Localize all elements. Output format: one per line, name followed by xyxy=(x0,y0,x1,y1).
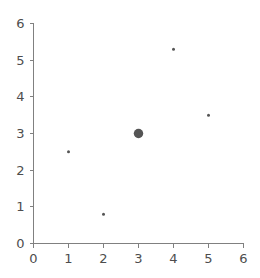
scatter-point xyxy=(172,48,175,51)
scatter-point xyxy=(207,114,210,117)
x-tick-label: 5 xyxy=(204,251,212,266)
y-tick-label: 5 xyxy=(16,53,24,68)
y-tick-label: 6 xyxy=(16,16,24,31)
scatter-point xyxy=(102,213,105,216)
x-tick-label: 6 xyxy=(239,251,247,266)
y-tick-label: 1 xyxy=(16,199,24,214)
plot-canvas: 0123456 0123456 xyxy=(0,0,260,278)
figure-background xyxy=(0,0,260,278)
y-tick-label: 4 xyxy=(16,89,24,104)
scatter-plot-figure: 0123456 0123456 xyxy=(0,0,260,278)
scatter-point xyxy=(67,150,70,153)
y-tick-label: 0 xyxy=(16,236,24,251)
y-tick-label: 2 xyxy=(16,163,24,178)
y-tick-label: 3 xyxy=(16,126,24,141)
scatter-point xyxy=(134,129,144,139)
x-tick-label: 3 xyxy=(134,251,142,266)
x-tick-label: 0 xyxy=(29,251,37,266)
x-tick-label: 1 xyxy=(64,251,72,266)
x-tick-label: 4 xyxy=(169,251,177,266)
x-tick-label: 2 xyxy=(99,251,107,266)
